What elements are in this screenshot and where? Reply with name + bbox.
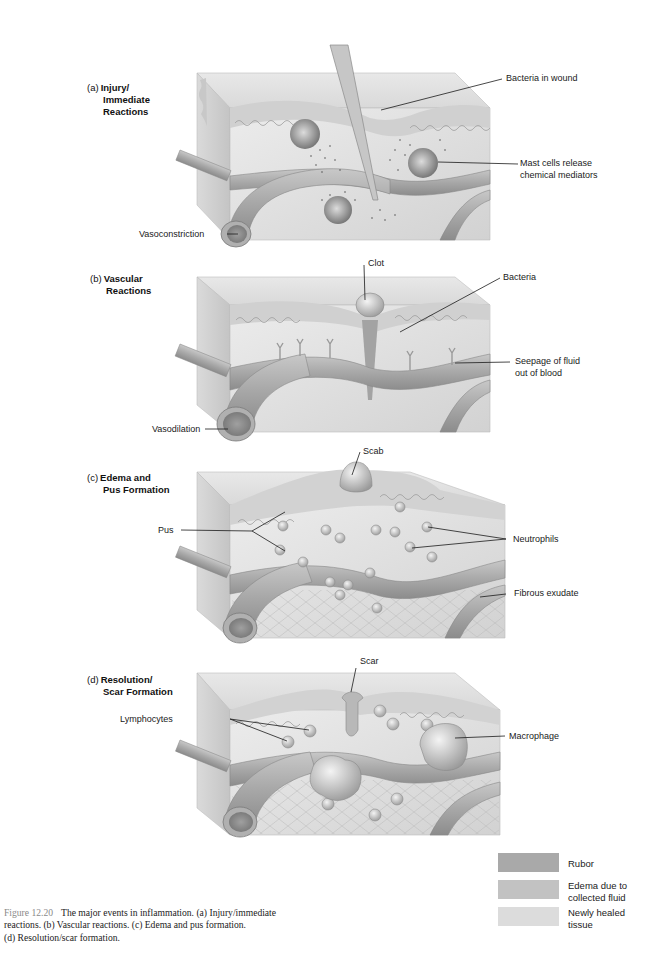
panel-d-title-line-2: Scar Formation <box>87 686 173 698</box>
panel-c-letter: (c) <box>87 472 98 483</box>
legend-label-healed-line-2: tissue <box>568 919 593 931</box>
figure-caption: Figure 12.20The major events in inflamma… <box>4 907 364 944</box>
legend-label-edema-line-2: collected fluid <box>568 892 626 904</box>
panel-c-title: (c)Edema and Pus Formation <box>87 472 170 496</box>
label-neutrophils: Neutrophils <box>513 534 559 546</box>
label-scab: Scab <box>363 446 384 458</box>
panel-d-title-line-1: Resolution/ <box>99 674 153 685</box>
clot-icon <box>356 293 384 317</box>
panel-b-title: (b)Vascular Reactions <box>90 273 151 297</box>
label-fibrous-exudate: Fibrous exudate <box>514 588 579 600</box>
label-vasodilation: Vasodilation <box>152 424 200 436</box>
legend-label-edema-line-1: Edema due to <box>568 880 627 892</box>
scab-icon <box>340 462 372 492</box>
label-seepage-line-1: Seepage of fluid <box>515 356 580 368</box>
panel-d-block <box>176 673 500 837</box>
panel-d-title: (d)Resolution/ Scar Formation <box>87 674 173 698</box>
macrophage-icon <box>420 724 467 771</box>
legend-swatch-healed <box>498 907 559 926</box>
panel-b-letter: (b) <box>90 273 102 284</box>
label-lymphocytes: Lymphocytes <box>120 714 173 726</box>
label-bacteria-in-wound: Bacteria in wound <box>506 73 578 85</box>
panel-c-title-line-2: Pus Formation <box>87 484 170 496</box>
panel-b-title-line-1: Vascular <box>102 273 143 284</box>
figure-number: Figure 12.20 <box>4 907 53 918</box>
label-mast-cells-line-1: Mast cells release <box>520 158 592 170</box>
panel-a-title-line-3: Reactions <box>87 106 150 118</box>
panel-a-block <box>176 45 490 247</box>
caption-text-1: The major events in inflammation. (a) In… <box>61 907 276 918</box>
panel-c-block <box>176 462 505 643</box>
legend-swatch-edema <box>498 880 559 899</box>
panel-d-letter: (d) <box>87 674 99 685</box>
label-pus: Pus <box>158 525 174 537</box>
caption-line-2: reactions. (b) Vascular reactions. (c) E… <box>4 919 364 931</box>
legend-label-healed-line-1: Newly healed <box>568 907 625 919</box>
label-seepage-line-2: out of blood <box>515 368 562 380</box>
caption-line-3: (d) Resolution/scar formation. <box>4 932 364 944</box>
panel-b-block <box>175 277 490 441</box>
panel-c-title-line-1: Edema and <box>98 472 151 483</box>
label-clot: Clot <box>368 258 384 270</box>
legend-swatch-rubor <box>498 853 559 872</box>
panel-a-letter: (a) <box>87 82 99 93</box>
panel-a-title: (a)Injury/ Immediate Reactions <box>87 82 150 118</box>
legend-label-rubor: Rubor <box>568 858 594 870</box>
panel-b-title-line-2: Reactions <box>90 285 151 297</box>
label-scar: Scar <box>360 656 379 668</box>
caption-line-1: Figure 12.20The major events in inflamma… <box>4 907 364 919</box>
panel-a-title-line-2: Immediate <box>87 94 150 106</box>
label-bacteria: Bacteria <box>503 272 536 284</box>
panel-a-title-line-1: Injury/ <box>99 82 130 93</box>
label-mast-cells-line-2: chemical mediators <box>520 170 598 182</box>
label-macrophage: Macrophage <box>509 731 559 743</box>
label-vasoconstriction: Vasoconstriction <box>139 229 204 241</box>
